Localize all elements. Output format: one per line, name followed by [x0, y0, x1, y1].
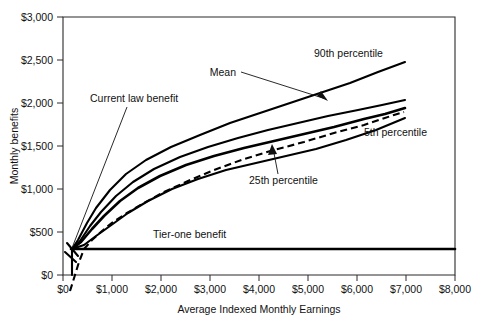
- annotation-5th-percentile: 5th percentile: [364, 126, 427, 138]
- x-tick-label: $6,000: [341, 283, 373, 295]
- y-tick-label: $1,500: [21, 140, 53, 152]
- annotation-tier-one-benefit: Tier-one benefit: [153, 228, 226, 240]
- y-tick-label: $0: [41, 269, 53, 281]
- annotation-mean: Mean: [210, 66, 236, 78]
- x-tick-label: $4,000: [243, 283, 275, 295]
- y-tick-label: $3,000: [21, 11, 53, 23]
- benefits-line-chart: $3,000 $2,500 $2,000 $1,500 $1,000 $500 …: [0, 0, 479, 325]
- x-axis-tick-labels: $0 $1,000 $2,000 $3,000 $4,000 $5,000 $6…: [57, 283, 471, 295]
- y-tick-label: $2,000: [21, 97, 53, 109]
- x-tick-label: $5,000: [292, 283, 324, 295]
- x-tick-label: $1,000: [96, 283, 128, 295]
- x-tick-label: $0: [57, 283, 69, 295]
- x-tick-label: $7,000: [390, 283, 422, 295]
- y-tick-label: $2,500: [21, 54, 53, 66]
- chart-container: $3,000 $2,500 $2,000 $1,500 $1,000 $500 …: [0, 0, 479, 325]
- x-tick-label: $8,000: [439, 283, 471, 295]
- x-tick-label: $3,000: [194, 283, 226, 295]
- x-tick-label: $2,000: [145, 283, 177, 295]
- annotation-25th-percentile: 25th percentile: [249, 174, 318, 186]
- annotation-90th-percentile: 90th percentile: [314, 47, 383, 59]
- chart-background: [0, 0, 479, 325]
- annotation-current-law-benefit: Current law benefit: [90, 92, 178, 104]
- y-tick-label: $1,000: [21, 183, 53, 195]
- y-axis-title: Monthly benefits: [8, 108, 20, 184]
- x-axis-title: Average Indexed Monthly Earnings: [177, 303, 340, 315]
- y-tick-label: $500: [30, 226, 54, 238]
